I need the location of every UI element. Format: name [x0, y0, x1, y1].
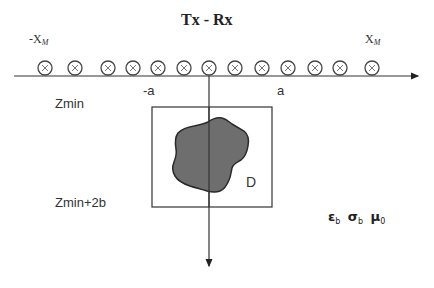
scatterer-shape	[173, 118, 249, 192]
scatterer-label: D	[246, 175, 256, 189]
domain-bottom-bound-label: Zmin+2b	[55, 196, 106, 209]
antenna-array	[38, 61, 379, 75]
left-limit-label: -XM	[29, 33, 48, 47]
diagram-title: Tx - Rx	[181, 12, 233, 28]
left-limit-text: -X	[29, 32, 42, 46]
right-limit-text: X	[365, 32, 374, 46]
domain-right-bound-label: a	[277, 84, 284, 97]
antenna-icon	[151, 61, 165, 75]
antenna-icon	[281, 61, 295, 75]
param-mu: μ0	[371, 209, 386, 224]
right-limit-subscript: M	[374, 38, 381, 47]
right-limit-label: XM	[365, 33, 380, 47]
domain-top-bound-label: Zmin	[55, 97, 84, 110]
antenna-icon	[308, 61, 322, 75]
antenna-icon	[177, 61, 191, 75]
param-sigma: σb	[348, 209, 363, 224]
antenna-icon	[333, 61, 347, 75]
diagram-canvas: Tx - Rx -XM XM -a a Zmin Zmin+2b D εb σb…	[0, 0, 434, 288]
antenna-icon	[228, 61, 242, 75]
antenna-icon	[126, 61, 140, 75]
antenna-icon	[68, 61, 82, 75]
antenna-icon	[101, 61, 115, 75]
background-params-label: εb σb μ0	[328, 210, 388, 226]
domain-left-bound-label: -a	[143, 84, 155, 97]
antenna-icon	[38, 61, 52, 75]
left-limit-subscript: M	[42, 38, 49, 47]
antenna-icon	[255, 61, 269, 75]
param-epsilon: εb	[328, 209, 340, 224]
antenna-icon	[365, 61, 379, 75]
antenna-icon	[202, 61, 216, 75]
